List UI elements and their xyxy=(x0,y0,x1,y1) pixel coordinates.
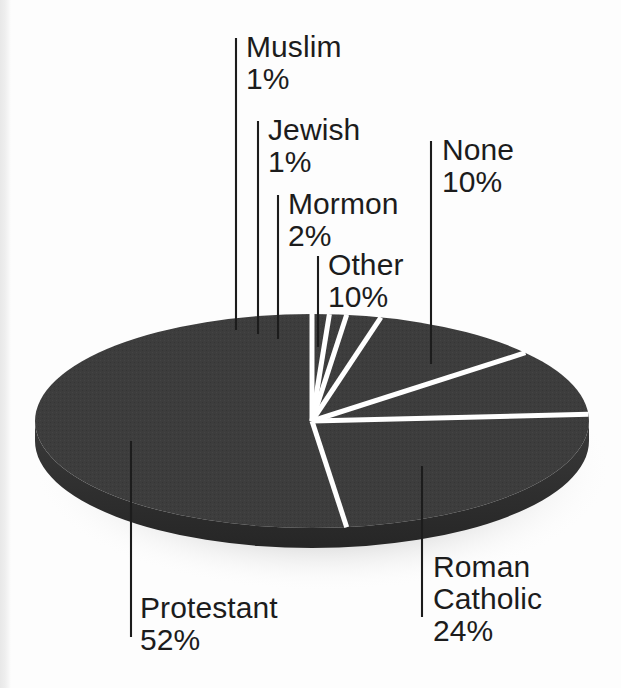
slice-label-muslim-pct: 1% xyxy=(246,63,342,95)
pie-chart-page: Muslim 1% Jewish 1% Mormon 2% Other 10% … xyxy=(0,0,621,688)
slice-label-protestant: Protestant 52% xyxy=(140,592,278,656)
slice-label-roman-catholic-name2: Catholic xyxy=(433,583,542,615)
slice-label-other-pct: 10% xyxy=(328,281,404,313)
slice-label-muslim: Muslim 1% xyxy=(246,31,342,95)
slice-label-protestant-name: Protestant xyxy=(140,592,278,624)
slice-label-muslim-name: Muslim xyxy=(246,31,342,63)
slice-label-mormon-name: Mormon xyxy=(288,188,399,220)
slice-label-other: Other 10% xyxy=(328,249,404,313)
slice-label-roman-catholic-pct: 24% xyxy=(433,615,542,647)
slice-label-roman-catholic-name1: Roman xyxy=(433,551,542,583)
slice-label-mormon: Mormon 2% xyxy=(288,188,399,252)
slice-label-jewish-pct: 1% xyxy=(268,146,360,178)
slice-label-roman-catholic: Roman Catholic 24% xyxy=(433,551,542,647)
slice-label-none: None 10% xyxy=(442,134,514,198)
slice-label-none-pct: 10% xyxy=(442,166,514,198)
slice-label-other-name: Other xyxy=(328,249,404,281)
slice-label-none-name: None xyxy=(442,134,514,166)
pie-slices xyxy=(35,314,589,528)
slice-label-protestant-pct: 52% xyxy=(140,624,278,656)
slice-label-jewish-name: Jewish xyxy=(268,114,360,146)
slice-label-jewish: Jewish 1% xyxy=(268,114,360,178)
